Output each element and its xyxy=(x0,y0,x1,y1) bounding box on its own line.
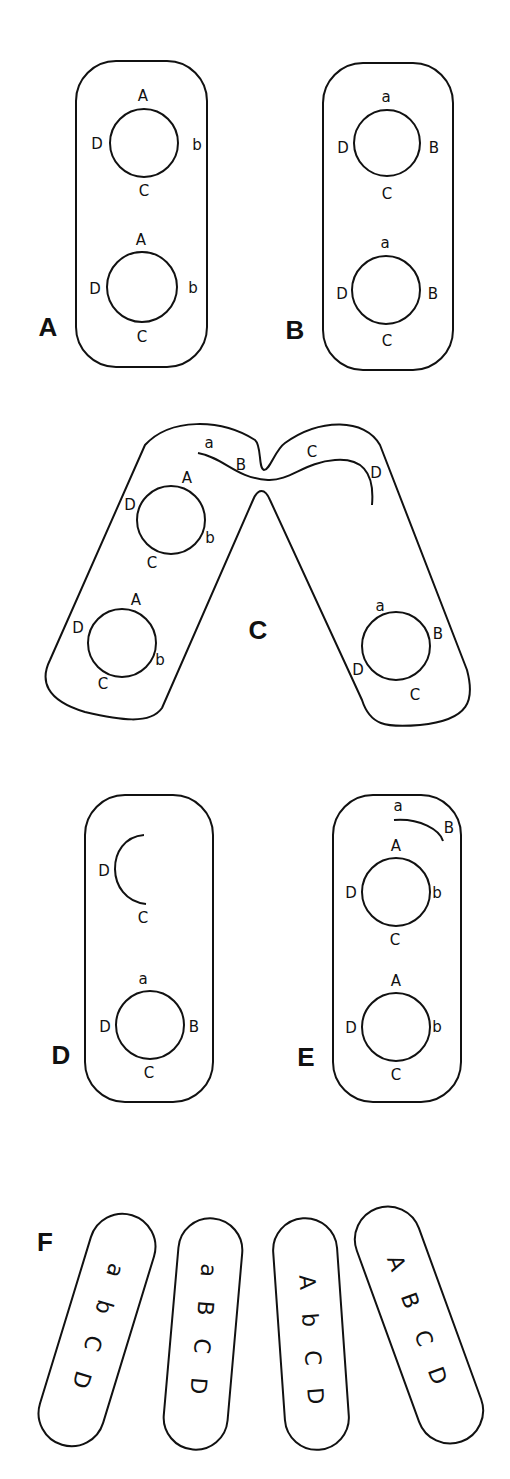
gene: b xyxy=(297,1312,323,1328)
plasmid-circle xyxy=(362,993,430,1061)
gene: D xyxy=(67,1368,96,1392)
gene-top: a xyxy=(380,234,389,252)
gene-bottom: C xyxy=(390,931,400,949)
panel-f: F a b C D a B C D A b xyxy=(30,1197,492,1454)
panel-a: A b C D A b C D A xyxy=(39,61,207,367)
gene-top: A xyxy=(391,972,402,990)
gene-right: b xyxy=(432,884,442,902)
gene-left: D xyxy=(345,884,357,902)
plasmid-circle xyxy=(354,110,420,176)
strand-gene: C xyxy=(307,443,317,461)
plasmid-circle xyxy=(352,256,420,324)
strand-gene: D xyxy=(370,464,382,482)
gene-right: b xyxy=(188,279,198,297)
gene-bottom: C xyxy=(139,182,149,200)
gene-top: A xyxy=(138,87,149,105)
plasmid-circle xyxy=(362,612,430,680)
gene-left: D xyxy=(89,280,101,298)
gene: B xyxy=(192,1299,218,1316)
fragment-gene-c: C xyxy=(138,909,148,927)
gene-bottom: C xyxy=(137,328,147,346)
gene: A xyxy=(382,1252,411,1275)
gene-top: a xyxy=(375,597,384,615)
plasmid: a B C D xyxy=(99,970,199,1082)
gene: C xyxy=(189,1337,215,1354)
gene: A xyxy=(294,1274,320,1291)
dna-fragment xyxy=(394,820,443,841)
plasmid-circle xyxy=(116,991,184,1059)
panel-label: D xyxy=(52,1040,71,1070)
gene-bottom: C xyxy=(147,554,157,572)
strand-gene: B xyxy=(236,456,246,474)
gene: D xyxy=(302,1387,328,1406)
recombinant-cell: A b C D xyxy=(271,1216,351,1452)
cell-outline xyxy=(161,1216,245,1453)
panel-b: a B C D a B C D B xyxy=(286,63,453,370)
gene-top: a xyxy=(381,88,390,106)
gene-right: B xyxy=(433,625,443,643)
diagram-canvas: A b C D A b C D A a B C D a B C D xyxy=(0,0,510,1479)
plasmid: A b C D xyxy=(345,837,442,949)
gene: b xyxy=(90,1297,118,1318)
gene: B xyxy=(396,1289,425,1312)
transfer-strand xyxy=(198,453,372,505)
gene-top: a xyxy=(138,970,147,988)
gene-left: D xyxy=(91,135,103,153)
plasmid: A b C D xyxy=(345,972,442,1084)
strand-gene: a xyxy=(204,434,213,452)
gene-bottom: C xyxy=(382,185,392,203)
plasmid-circle xyxy=(362,858,430,926)
plasmid: A b C D xyxy=(91,87,202,200)
plasmid: A b C D xyxy=(124,469,215,572)
plasmid: A b C D xyxy=(89,231,198,346)
gene-bottom: C xyxy=(410,686,420,704)
gene-top: A xyxy=(136,231,147,249)
fragment-gene-d: D xyxy=(98,862,110,880)
panel-label: F xyxy=(37,1227,53,1257)
panel-d: D C a B C D D xyxy=(52,795,213,1102)
gene: a xyxy=(196,1262,222,1278)
gene-top: A xyxy=(131,591,142,609)
gene-left: D xyxy=(352,661,364,679)
gene-right: b xyxy=(155,651,165,669)
gene-bottom: C xyxy=(391,1066,401,1084)
plasmid-circle xyxy=(107,252,177,322)
gene-right: b xyxy=(432,1018,442,1036)
gene: a xyxy=(101,1261,129,1281)
panel-label: E xyxy=(297,1042,314,1072)
gene: C xyxy=(300,1349,326,1366)
panel-c: a B C D A b C D A b C D a B C D C xyxy=(46,424,471,726)
recombinant-cell: a B C D xyxy=(161,1216,245,1453)
gene-left: D xyxy=(345,1019,357,1037)
gene-top: A xyxy=(182,469,193,487)
gene-left: D xyxy=(99,1018,111,1036)
panel-label: A xyxy=(39,312,58,342)
gene: C xyxy=(409,1327,438,1350)
gene-right: b xyxy=(192,136,202,154)
plasmid-circle xyxy=(137,486,205,554)
gene: D xyxy=(423,1364,452,1388)
plasmid-circle xyxy=(88,609,156,677)
panel-label: B xyxy=(286,315,305,345)
plasmid: A b C D xyxy=(72,591,165,693)
cell-outline xyxy=(271,1216,351,1452)
gene-right: B xyxy=(429,139,439,157)
gene-top: A xyxy=(391,837,402,855)
gene-left: D xyxy=(336,285,348,303)
dna-fragment xyxy=(115,835,146,904)
plasmid: a B C D xyxy=(337,88,439,203)
plasmid: a B C D xyxy=(336,234,438,350)
panel-label: C xyxy=(249,615,268,645)
fragment-gene-b: B xyxy=(444,819,454,837)
cell-outline xyxy=(346,1197,493,1453)
plasmid: a B C D xyxy=(352,597,443,704)
gene-left: D xyxy=(124,496,136,514)
gene: C xyxy=(79,1332,107,1354)
cell-outline xyxy=(85,795,213,1102)
gene: D xyxy=(185,1376,211,1395)
gene-bottom: C xyxy=(98,675,108,693)
panel-e: a B A b C D A b C D E xyxy=(297,795,461,1102)
gene-right: b xyxy=(205,529,215,547)
gene-right: B xyxy=(189,1018,199,1036)
plasmid-circle xyxy=(110,109,178,177)
